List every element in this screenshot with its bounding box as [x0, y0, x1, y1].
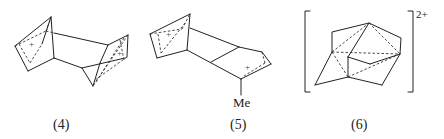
cation-symbol: + [29, 39, 34, 49]
charge-label: 2+ [416, 8, 428, 20]
cation-symbol: + [117, 48, 122, 58]
cation-symbol: + [166, 29, 171, 39]
structure-label: (4) [53, 117, 70, 133]
structure-label: (6) [351, 117, 368, 133]
left-bracket [305, 11, 310, 92]
structure-6: 2+ (6) [305, 8, 428, 133]
right-bracket [408, 11, 413, 92]
methyl-substituent: Me [233, 95, 251, 110]
chemical-structures-diagram: + + (4) Me + + (5) 2+ [0, 0, 444, 139]
structure-4: + + (4) [15, 17, 128, 133]
structure-5: Me + + (5) [150, 14, 271, 133]
structure-label: (5) [230, 117, 247, 133]
cation-symbol: + [245, 62, 250, 72]
